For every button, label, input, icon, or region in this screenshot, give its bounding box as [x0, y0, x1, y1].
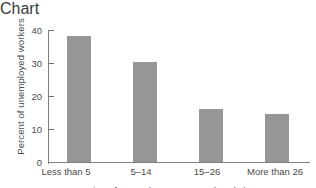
- y-tick-label-10: 10: [2, 125, 42, 135]
- x-tick-label-5-14: 5–14: [110, 167, 172, 177]
- x-axis-title: Duration of unemployment, 1997 (weeks): [0, 185, 316, 188]
- bar-more-than-26: [265, 114, 289, 162]
- y-tick-mark-20: [49, 96, 54, 97]
- y-tick-label-40: 40: [2, 26, 42, 36]
- y-tick-label-30: 30: [2, 59, 42, 69]
- y-tick-mark-30: [49, 63, 54, 64]
- bar-15-26: [199, 109, 223, 162]
- y-tick-mark-10: [49, 129, 54, 130]
- x-axis-line: [48, 162, 310, 163]
- x-tick-label-less-than-5: Less than 5: [31, 167, 101, 177]
- bar-chart-figure: Percent of unemployed workers 40 30 20 1…: [0, 18, 316, 188]
- y-tick-mark-40: [49, 30, 54, 31]
- x-tick-label-15-26: 15–26: [176, 167, 238, 177]
- y-tick-label-20: 20: [2, 92, 42, 102]
- bar-less-than-5: [67, 36, 91, 162]
- bar-5-14: [133, 62, 157, 162]
- y-axis-line: [48, 30, 49, 164]
- x-tick-label-more-than-26: More than 26: [235, 167, 315, 177]
- plot-area: [48, 30, 310, 163]
